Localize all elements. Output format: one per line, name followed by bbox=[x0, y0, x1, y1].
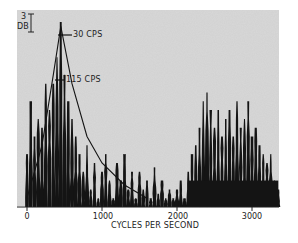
annotation-30-cps: 30 CPS bbox=[73, 30, 102, 39]
x-axis-label: CYCLES PER SECOND bbox=[111, 221, 199, 230]
x-tick-label-2000: 2000 bbox=[168, 212, 188, 221]
x-tick-label-0: 0 bbox=[24, 212, 29, 221]
db-scale-value: 3 bbox=[21, 12, 26, 21]
db-scale-unit: DB bbox=[17, 22, 29, 31]
x-tick-label-3000: 3000 bbox=[242, 212, 262, 221]
x-tick-label-1000: 1000 bbox=[93, 212, 113, 221]
annotation-115-cps: 115 CPS bbox=[66, 75, 101, 84]
spectrum-chart bbox=[0, 0, 298, 243]
